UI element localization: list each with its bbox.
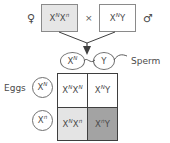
offspring-cell-top-left: XNXN (58, 74, 87, 107)
father-genotype-text: XNY (110, 14, 126, 23)
sperm-tail-1-icon (84, 56, 96, 66)
offspring-cell-top-right: XNY (88, 74, 117, 107)
sperm-cell-1: XN (60, 52, 85, 70)
eggs-label: Eggs (4, 84, 26, 93)
punnett-grid: XNXN XNY XNXn XnY (57, 73, 118, 141)
sperm-tail-1 (84, 56, 96, 66)
male-symbol: ♂ (143, 13, 153, 24)
sperm-label: Sperm (131, 57, 160, 66)
egg-cell-2-label: Xn (38, 116, 48, 125)
sperm-tail-2-icon (114, 53, 128, 63)
sperm-cell-2-label: Y (101, 57, 106, 66)
sperm-cell-1-label: XN (67, 57, 77, 66)
father-genotype-box: XNY (99, 4, 136, 32)
offspring-cell-bottom-left: XNXn (58, 108, 87, 141)
cross-arrow-icon (54, 31, 120, 56)
cross-symbol: × (85, 14, 93, 23)
mother-genotype-box: XNXn (41, 4, 78, 32)
sperm-cell-2: Y (93, 52, 115, 70)
punnett-square-diagram: ♀ XNXn × XNY ♂ XN Y Sperm Eggs X (0, 0, 170, 143)
egg-cell-2: Xn (32, 110, 53, 131)
offspring-cell-bottom-right: XnY (88, 108, 117, 141)
offspring-genotype-bottom-right: XnY (95, 120, 110, 129)
egg-cell-1-label: XN (37, 83, 47, 92)
cross-arrow (54, 31, 120, 56)
female-symbol: ♀ (27, 13, 35, 24)
offspring-genotype-top-left: XNXN (62, 86, 82, 95)
sperm-tail-2 (114, 53, 128, 63)
offspring-genotype-bottom-left: XNXn (63, 120, 83, 129)
offspring-genotype-top-right: XNY (95, 86, 111, 95)
mother-genotype-text: XNXn (50, 14, 70, 23)
egg-cell-1: XN (32, 77, 53, 98)
